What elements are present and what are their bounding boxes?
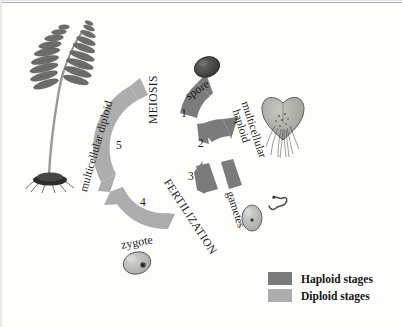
step-number-5: 5 [116,140,122,152]
step-number-1: 1 [181,108,187,120]
legend-item-haploid: Haploid stages [268,271,373,286]
diagram-page: MEIOSIS spore multicellular haploid game… [0,0,402,327]
legend-swatch-haploid [268,272,292,285]
spore-illustration [191,53,222,81]
legend-item-diploid: Diploid stages [268,288,373,303]
legend-label-haploid: Haploid stages [301,273,373,285]
step-number-2: 2 [198,138,204,150]
fern-roots [26,173,74,194]
step-number-3: 3 [188,171,194,183]
zygote-cell-illustration [121,249,154,277]
legend-swatch-diploid [268,289,292,302]
step-number-4: 4 [140,197,146,209]
heart-shaped-gametophyte-illustration [262,97,304,158]
legend: Haploid stages Diploid stages [268,271,373,305]
legend-label-diploid: Diploid stages [301,290,370,302]
sperm-cell-illustration [269,195,287,209]
label-meiosis: MEIOSIS [148,60,162,120]
